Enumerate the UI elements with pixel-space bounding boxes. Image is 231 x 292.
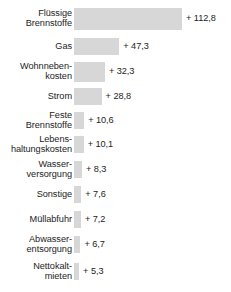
bar-chart: Flüssige Brennstoffe+ 112,8Gas+ 47,3Wohn… (0, 0, 231, 292)
bar (74, 136, 84, 153)
bar-area: + 28,8 (74, 88, 231, 105)
bar (74, 88, 102, 105)
bar-row: Feste Brennstoffe+ 10,6 (0, 112, 231, 129)
bar-row-label: Feste Brennstoffe (0, 111, 74, 130)
bar (74, 211, 81, 228)
bar-row-label: Flüssige Brennstoffe (0, 9, 74, 28)
bar-value-label: + 112,8 (182, 14, 216, 24)
bar-row: Nettokalt- mieten+ 5,3 (0, 263, 231, 280)
bar-area: + 6,7 (74, 236, 231, 253)
bar-area: + 7,6 (74, 186, 231, 203)
bar-row-label: Lebens- haltungskosten (0, 135, 74, 154)
bar (74, 112, 84, 129)
bar-value-label: + 6,7 (80, 240, 104, 250)
bar (74, 8, 182, 30)
bar (74, 38, 119, 55)
bar-value-label: + 5,3 (79, 267, 103, 277)
bar-area: + 10,6 (74, 112, 231, 129)
bar-value-label: + 7,2 (81, 215, 105, 225)
bar-row-label: Abwasser- entsorgung (0, 235, 74, 254)
bar (74, 62, 105, 82)
bar-rows-container: Flüssige Brennstoffe+ 112,8Gas+ 47,3Wohn… (0, 0, 231, 292)
bar-row: Gas+ 47,3 (0, 38, 231, 55)
bar (74, 161, 82, 178)
bar (74, 186, 81, 203)
bar-row: Wohnneben- kosten+ 32,3 (0, 62, 231, 82)
bar-area: + 32,3 (74, 62, 231, 82)
bar-row: Müllabfuhr+ 7,2 (0, 211, 231, 228)
bar-area: + 47,3 (74, 38, 231, 55)
bar-value-label: + 10,6 (84, 116, 114, 126)
bar-row-label: Wasser- versorgung (0, 160, 74, 179)
bar-value-label: + 32,3 (105, 67, 135, 77)
bar-area: + 8,3 (74, 161, 231, 178)
bar-area: + 5,3 (74, 263, 231, 280)
bar-area: + 112,8 (74, 8, 231, 30)
bar-row: Abwasser- entsorgung+ 6,7 (0, 236, 231, 253)
bar-area: + 10,1 (74, 136, 231, 153)
bar-area: + 7,2 (74, 211, 231, 228)
bar-row-label: Wohnneben- kosten (0, 62, 74, 81)
bar-value-label: + 10,1 (84, 140, 114, 150)
bar-value-label: + 8,3 (82, 165, 106, 175)
bar-row-label: Sonstige (0, 190, 74, 200)
bar-row: Flüssige Brennstoffe+ 112,8 (0, 8, 231, 30)
bar-value-label: + 47,3 (119, 42, 149, 52)
bar-row-label: Gas (0, 42, 74, 52)
bar-row: Strom+ 28,8 (0, 88, 231, 105)
bar-row-label: Müllabfuhr (0, 215, 74, 225)
bar-row: Lebens- haltungskosten+ 10,1 (0, 136, 231, 153)
bar-row-label: Nettokalt- mieten (0, 262, 74, 281)
bar-row: Sonstige+ 7,6 (0, 186, 231, 203)
bar-value-label: + 28,8 (102, 92, 132, 102)
bar-row-label: Strom (0, 92, 74, 102)
bar-row: Wasser- versorgung+ 8,3 (0, 161, 231, 178)
bar-value-label: + 7,6 (81, 190, 105, 200)
